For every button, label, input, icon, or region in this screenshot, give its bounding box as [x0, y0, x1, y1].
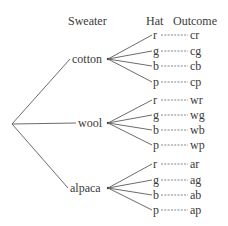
- header-outcome: Outcome: [173, 14, 217, 28]
- outcome-wr: wr: [190, 93, 203, 107]
- outcome-cr: cr: [190, 28, 199, 42]
- hat-r: r: [153, 93, 157, 107]
- outcome-cp: cp: [190, 75, 201, 89]
- tree-branches: cottonrcrgcgbcbpcpwoolrwrgwgbwbpwpalpaca…: [12, 28, 205, 217]
- edge-wool-r: [108, 100, 152, 123]
- outcome-wg: wg: [190, 108, 205, 122]
- outcome-ap: ap: [190, 203, 201, 217]
- hat-p: p: [153, 138, 159, 152]
- header-sweater: Sweater: [68, 14, 107, 28]
- outcome-cg: cg: [190, 44, 201, 58]
- hat-r: r: [153, 157, 157, 171]
- hat-p: p: [153, 75, 159, 89]
- hat-b: b: [153, 123, 159, 137]
- edge-root-alpaca: [12, 124, 68, 188]
- edge-root-cotton: [12, 59, 70, 124]
- header-hat: Hat: [146, 14, 164, 28]
- hat-r: r: [153, 28, 157, 42]
- sweater-cotton: cotton: [72, 52, 102, 66]
- hat-g: g: [153, 108, 159, 122]
- outcome-ar: ar: [190, 157, 199, 171]
- sweater-wool: wool: [78, 116, 103, 130]
- hat-b: b: [153, 188, 159, 202]
- hat-g: g: [153, 173, 159, 187]
- edge-root-wool: [12, 123, 76, 124]
- edge-wool-g: [108, 115, 152, 123]
- outcome-ab: ab: [190, 188, 201, 202]
- tree-diagram: Sweater Hat Outcome cottonrcrgcgbcbpcpwo…: [0, 0, 228, 226]
- outcome-wp: wp: [190, 138, 205, 152]
- hat-p: p: [153, 203, 159, 217]
- hat-g: g: [153, 44, 159, 58]
- sweater-alpaca: alpaca: [70, 181, 101, 195]
- outcome-ag: ag: [190, 173, 201, 187]
- outcome-cb: cb: [190, 59, 201, 73]
- outcome-wb: wb: [190, 123, 205, 137]
- hat-b: b: [153, 59, 159, 73]
